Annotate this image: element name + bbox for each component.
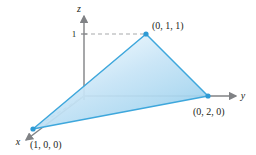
x-axis-label: x	[15, 136, 21, 147]
y-axis-label: y	[240, 90, 246, 101]
vertex-dot-apex	[143, 31, 148, 36]
vertex-dot-x-intercept	[30, 126, 35, 131]
z-tick-label-1: 1	[72, 29, 77, 39]
triangle-fill	[33, 34, 208, 129]
vertex-label-apex: (0, 1, 1)	[152, 20, 184, 32]
z-axis-label: z	[76, 3, 81, 14]
vertex-label-x-intercept: (1, 0, 0)	[30, 139, 62, 151]
triangle-region	[33, 34, 208, 129]
coordinate-system-diagram: z y x 1 (0, 1, 1) (0, 2, 0) (1, 0, 0)	[0, 0, 256, 155]
vertex-dot-y-intercept	[205, 93, 210, 98]
figure-canvas: z y x 1 (0, 1, 1) (0, 2, 0) (1, 0, 0)	[0, 0, 256, 155]
vertex-label-y-intercept: (0, 2, 0)	[193, 106, 225, 118]
